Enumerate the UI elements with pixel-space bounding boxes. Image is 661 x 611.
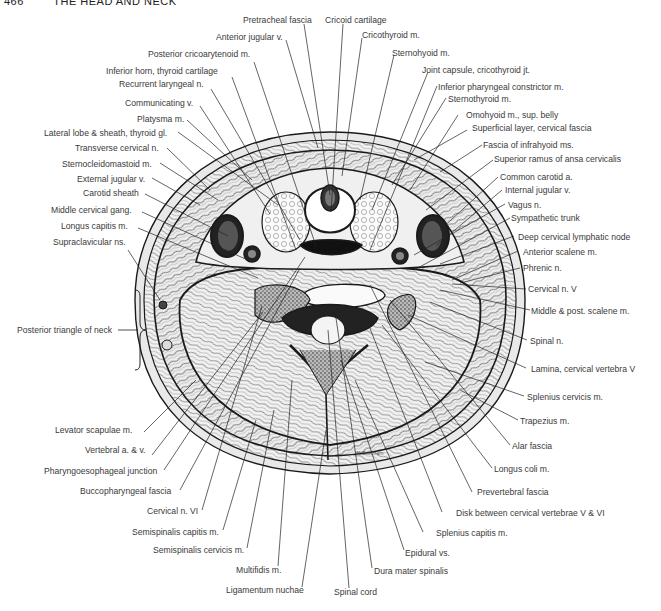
label-alar-fascia: Alar fascia <box>512 441 552 451</box>
label-inferior-pharyngeal-constrictor-m: Inferior pharyngeal constrictor m. <box>438 82 564 92</box>
label-sternohyoid-m: Sternohyoid m. <box>392 48 450 58</box>
label-vagus-n: Vagus n. <box>508 200 541 210</box>
label-sympathetic-trunk: Sympathetic trunk <box>511 213 580 223</box>
label-internal-jugular-v: Internal jugular v. <box>505 185 570 195</box>
label-communicating-v: Communicating v. <box>125 98 193 108</box>
label-superficial-layer-cervical-fascia: Superficial layer, cervical fascia <box>472 123 591 133</box>
label-joint-capsule-cricothyroid-jt: Joint capsule, cricothyroid jt. <box>422 65 530 75</box>
label-deep-cervical-lymphatic-node: Deep cervical lymphatic node <box>518 232 630 242</box>
label-levator-scapulae-m: Levator scapulae m. <box>55 425 132 435</box>
label-inferior-horn-thyroid-cartilage: Inferior horn, thyroid cartilage <box>106 66 218 76</box>
label-prevertebral-fascia: Prevertebral fascia <box>477 487 549 497</box>
label-epidural-vs: Epidural vs. <box>405 548 450 558</box>
artist-signature: W. Beecham <box>355 450 383 456</box>
label-fascia-of-infrahyoid-ms: Fascia of infrahyoid ms. <box>483 140 574 150</box>
label-cricothyroid-m: Cricothyroid m. <box>362 30 420 40</box>
label-semispinalis-cervicis-m: Semispinalis cervicis m. <box>153 545 244 555</box>
label-dura-mater-spinalis: Dura mater spinalis <box>374 566 448 576</box>
label-cervical-n-v: Cervical n. V <box>528 284 577 294</box>
label-spinal-n: Spinal n. <box>530 336 563 346</box>
label-buccopharyngeal-fascia: Buccopharyngeal fascia <box>80 486 171 496</box>
label-trapezius-m: Trapezius m. <box>520 416 569 426</box>
label-pretracheal-fascia: Pretracheal fascia <box>243 15 312 25</box>
label-common-carotid-a: Common carotid a. <box>500 172 573 182</box>
label-external-jugular-v: External jugular v. <box>77 174 145 184</box>
label-lateral-lobe-sheath-thyroid-gl: Lateral lobe & sheath, thyroid gl. <box>44 128 167 138</box>
label-semispinalis-capitis-m: Semispinalis capitis m. <box>132 527 219 537</box>
label-omohyoid-m-sup-belly: Omohyoid m., sup. belly <box>466 110 558 120</box>
neck-outline: W. Beecham <box>135 132 525 474</box>
label-splenius-cervicis-m: Splenius cervicis m. <box>527 392 603 402</box>
label-platysma-m: Platysma m. <box>137 114 184 124</box>
label-posterior-triangle-of-neck: Posterior triangle of neck <box>17 325 112 335</box>
label-disk-between-cervical-vertebrae: Disk between cervical vertebrae V & VI <box>456 508 605 518</box>
label-vertebral-a-v: Vertebral a. & v. <box>85 445 146 455</box>
label-anterior-scalene-m: Anterior scalene m. <box>523 247 597 257</box>
label-supraclavicular-ns: Supraclavicular ns. <box>53 237 126 247</box>
label-sternothyroid-m: Sternothyroid m. <box>448 94 511 104</box>
label-ligamentum-nuchae: Ligamentum nuchae <box>226 585 304 595</box>
label-anterior-jugular-v: Anterior jugular v. <box>216 32 283 42</box>
label-multifidis-m: Multifidis m. <box>236 565 281 575</box>
label-sternocleidomastoid-m: Sternocleidomastoid m. <box>62 159 152 169</box>
label-middle-post-scalene-m: Middle & post. scalene m. <box>531 306 629 316</box>
label-transverse-cervical-n: Transverse cervical n. <box>75 143 159 153</box>
label-spinal-cord: Spinal cord <box>334 587 377 597</box>
label-cricoid-cartilage: Cricoid cartilage <box>325 15 387 25</box>
label-lamina-cervical-vertebra-v: Lamina, cervical vertebra V <box>531 364 635 374</box>
label-superior-ramus-ansa-cervicalis: Superior ramus of ansa cervicalis <box>494 154 621 164</box>
label-middle-cervical-gang: Middle cervical gang. <box>51 205 132 215</box>
label-longus-coli-m: Longus coli m. <box>494 464 549 474</box>
label-cervical-n-vi: Cervical n. VI <box>147 506 198 516</box>
label-splenius-capitis-m: Splenius capitis m. <box>436 528 508 538</box>
label-phrenic-n: Phrenic n. <box>523 263 562 273</box>
label-posterior-cricoarytenoid-m: Posterior cricoarytenoid m. <box>148 49 250 59</box>
label-carotid-sheath: Carotid sheath <box>83 188 139 198</box>
label-longus-capitis-m: Longus capitis m. <box>61 221 128 231</box>
label-recurrent-laryngeal-n: Recurrent laryngeal n. <box>119 79 204 89</box>
label-pharyngoesophageal-junction: Pharyngoesophageal junction <box>44 466 157 476</box>
